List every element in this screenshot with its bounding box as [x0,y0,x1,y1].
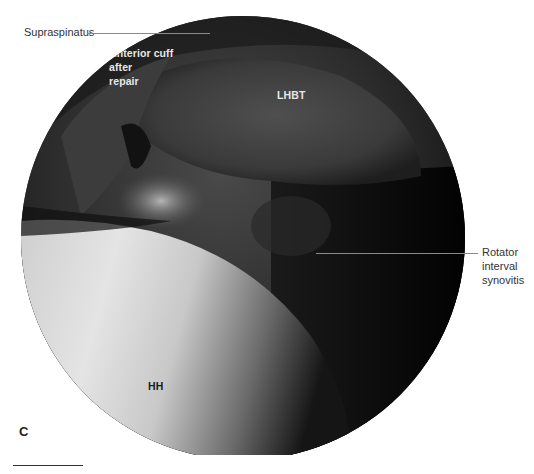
panel-letter: C [19,424,28,439]
label-anterior-cuff-line1: Anterior cuff [109,47,173,60]
leader-rotator-interval [316,253,478,254]
label-rotator-line3: synovitis [482,274,524,287]
label-rotator-line2: interval [482,260,517,273]
scope-image [21,16,465,455]
arthroscopy-figure: Anterior cuff after repair LHBT HH Supra… [0,0,534,474]
scale-bar [13,465,83,466]
label-hh: HH [148,380,163,393]
label-rotator-line1: Rotator [482,246,518,259]
label-lhbt: LHBT [277,89,305,102]
leader-supraspinatus [87,33,210,34]
label-supraspinatus: Supraspinatus [24,26,94,39]
arthroscopic-view: Anterior cuff after repair LHBT HH [21,16,465,455]
scope-clip: Anterior cuff after repair LHBT HH [0,0,534,455]
label-anterior-cuff-line2: after [109,61,132,74]
label-anterior-cuff-line3: repair [109,75,139,88]
